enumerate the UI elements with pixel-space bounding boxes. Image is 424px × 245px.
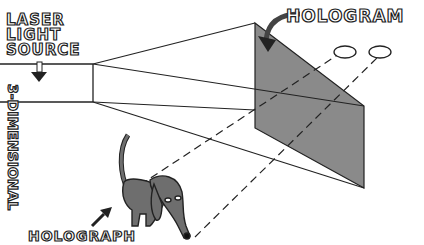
laser-arrow-icon xyxy=(31,72,47,82)
hologram-label: HOLOGRAM xyxy=(286,8,404,25)
holograph-label: HOLOGRAPH xyxy=(28,229,136,243)
laser-label-line3: SOURCE xyxy=(6,43,81,58)
laser-light-source-label: LASER LIGHT SOURCE xyxy=(6,13,81,58)
three-dimensional-label: 3-DIMENSIONAL xyxy=(6,84,20,210)
hologram-diagram: LASER LIGHT SOURCE HOLOGRAM 3-DIMENSIONA… xyxy=(0,0,424,245)
viewer-eye-left xyxy=(334,46,356,58)
dog-holograph-icon xyxy=(121,135,190,239)
viewer-eye-right xyxy=(369,46,391,58)
